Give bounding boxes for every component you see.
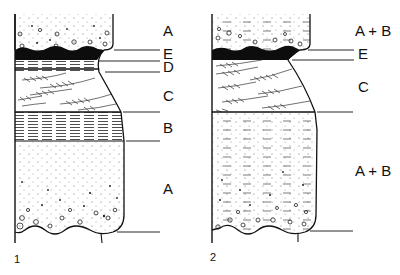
label-2-c: C	[358, 78, 369, 95]
label-1-d: D	[163, 58, 174, 75]
label-1-a-top: A	[163, 22, 173, 39]
label-1-a-lower: A	[163, 180, 173, 197]
profile-1: A E D C B A 1	[14, 14, 174, 265]
layer-a-lower	[15, 141, 124, 234]
label-2-ab-lower: A + B	[355, 162, 391, 179]
layer-c-cross-bedding-2	[216, 60, 310, 112]
label-1-c: C	[163, 87, 174, 104]
profile-1-number: 1	[14, 253, 20, 265]
layer-ab-lower	[212, 112, 317, 234]
label-2-e: E	[358, 45, 368, 62]
label-2-ab-top: A + B	[355, 22, 391, 39]
profile-2-number: 2	[210, 251, 216, 263]
layer-ab-top-cap	[212, 14, 310, 50]
stratigraphic-diagram: A E D C B A 1	[0, 0, 400, 275]
layer-c-cross-bedding	[18, 73, 116, 111]
layer-b-lamination	[15, 112, 123, 141]
layer-a-top-cap	[15, 14, 113, 50]
layer-d-lamination	[15, 60, 99, 72]
profile-2: A + B E C A + B 2	[210, 14, 391, 263]
label-1-b: B	[163, 119, 173, 136]
